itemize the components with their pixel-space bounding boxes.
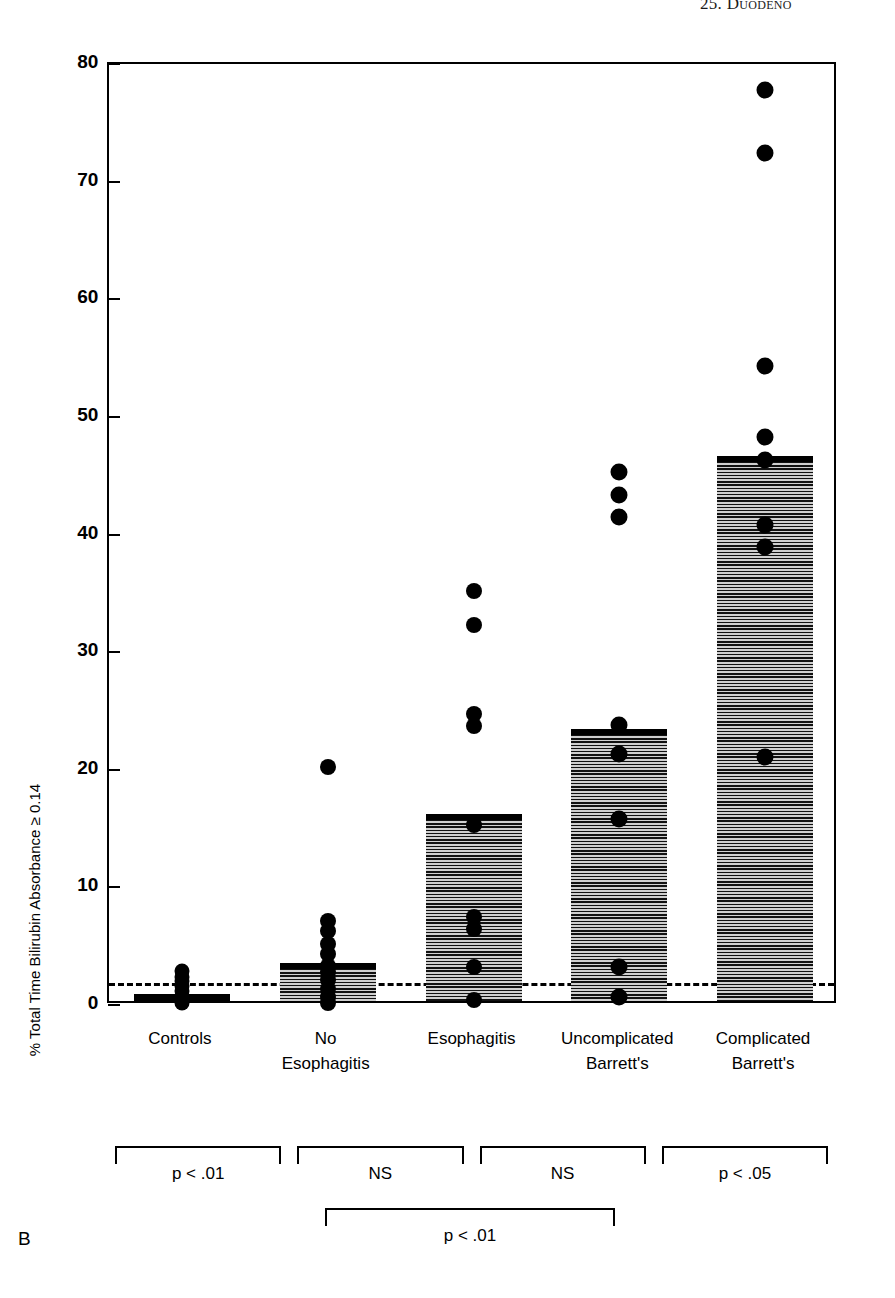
scatter-dot [611, 486, 628, 503]
scatter-dot [466, 909, 482, 925]
y-tick-40 [108, 534, 120, 536]
significance-bracket: NS [289, 1128, 471, 1190]
y-tick-20 [108, 769, 120, 771]
scatter-dot [611, 746, 628, 763]
scatter-dot [611, 811, 628, 828]
scatter-dot [466, 959, 482, 975]
y-axis-tick-labels: 01020304050607080 [50, 62, 98, 1003]
y-axis-title: % Total Time Bilirubin Absorbance ≥ 0.14 [26, 710, 43, 1130]
y-tick-label-30: 30 [77, 639, 98, 661]
y-tick-60 [108, 298, 120, 300]
scatter-dot [757, 358, 774, 375]
y-tick-30 [108, 651, 120, 653]
significance-bracket-row-1: p < .01NSNSp < .05 [107, 1128, 836, 1190]
scatter-dot [611, 508, 628, 525]
scatter-dot [611, 988, 628, 1005]
x-axis-label-3: UncomplicatedBarrett's [544, 1026, 690, 1096]
scatter-dot [320, 759, 336, 775]
scatter-dot [757, 748, 774, 765]
x-axis-label-line: Barrett's [544, 1051, 690, 1076]
x-axis-label-line: Controls [107, 1026, 253, 1051]
x-axis-label-line: Esophagitis [253, 1051, 399, 1076]
scatter-dot [757, 428, 774, 445]
bracket-label: p < .01 [325, 1226, 615, 1246]
y-tick-70 [108, 181, 120, 183]
x-axis-category-labels: ControlsNoEsophagitisEsophagitisUncompli… [107, 1026, 836, 1096]
x-axis-label-line: Complicated [690, 1026, 836, 1051]
x-axis-label-2: Esophagitis [399, 1026, 545, 1096]
x-axis-label-4: ComplicatedBarrett's [690, 1026, 836, 1096]
panel-letter: B [18, 1228, 31, 1250]
y-tick-0 [108, 1004, 120, 1006]
significance-bracket: NS [472, 1128, 654, 1190]
x-axis-label-line: Uncomplicated [544, 1026, 690, 1051]
x-axis-label-0: Controls [107, 1026, 253, 1096]
bracket-line [325, 1208, 615, 1226]
significance-bracket: p < .05 [654, 1128, 836, 1190]
bracket-line [297, 1146, 463, 1164]
y-tick-label-80: 80 [77, 51, 98, 73]
scatter-dot [466, 992, 482, 1008]
y-tick-label-70: 70 [77, 169, 98, 191]
significance-bracket-row-2: p < .01 [325, 1202, 615, 1262]
scatter-dot [611, 717, 628, 734]
scatter-dot [466, 817, 482, 833]
x-axis-label-line: Esophagitis [399, 1026, 545, 1051]
plot-area [107, 62, 836, 1003]
bracket-line [662, 1146, 828, 1164]
scatter-dot [757, 81, 774, 98]
y-tick-label-0: 0 [88, 992, 98, 1014]
x-axis-label-line: Barrett's [690, 1051, 836, 1076]
x-axis-label-1: NoEsophagitis [253, 1026, 399, 1096]
scatter-dot [466, 706, 482, 722]
bracket-label: p < .05 [654, 1164, 836, 1184]
scatter-dot [320, 913, 336, 929]
y-tick-50 [108, 416, 120, 418]
bracket-label: NS [472, 1164, 654, 1184]
y-tick-label-60: 60 [77, 286, 98, 308]
bracket-line [480, 1146, 646, 1164]
scatter-dot [757, 145, 774, 162]
scatter-dot [757, 517, 774, 534]
x-axis-label-line: No [253, 1026, 399, 1051]
bracket-label: p < .01 [107, 1164, 289, 1184]
scatter-dot [757, 452, 774, 469]
y-tick-label-20: 20 [77, 757, 98, 779]
scatter-dot [174, 963, 189, 978]
scatter-dot [757, 539, 774, 556]
y-tick-label-50: 50 [77, 404, 98, 426]
scatter-dot [611, 959, 628, 976]
scatter-dot [611, 464, 628, 481]
scatter-dot [466, 617, 482, 633]
y-tick-80 [108, 63, 120, 65]
significance-bracket: p < .01 [107, 1128, 289, 1190]
bracket-label: NS [289, 1164, 471, 1184]
y-tick-10 [108, 886, 120, 888]
scatter-dot [466, 583, 482, 599]
running-head: 25. Duodeno [700, 0, 895, 16]
bracket-line [115, 1146, 281, 1164]
y-tick-label-40: 40 [77, 522, 98, 544]
y-tick-label-10: 10 [77, 874, 98, 896]
